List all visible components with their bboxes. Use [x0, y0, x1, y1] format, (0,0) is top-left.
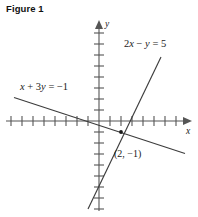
intersection-point-marker: [119, 130, 123, 134]
x-axis-label: x: [186, 126, 190, 136]
equation-label-steep-line: 2x − y = 5: [124, 38, 166, 49]
y-axis-arrow-icon: [95, 20, 103, 29]
y-axis-label: y: [105, 19, 109, 29]
x-axis-arrow-icon: [183, 117, 192, 125]
intersection-point-label: (2, −1): [114, 148, 141, 159]
coordinate-plot: [0, 0, 198, 217]
plot-svg: [0, 0, 198, 217]
equation-label-shallow-line: x + 3y = −1: [20, 81, 68, 92]
